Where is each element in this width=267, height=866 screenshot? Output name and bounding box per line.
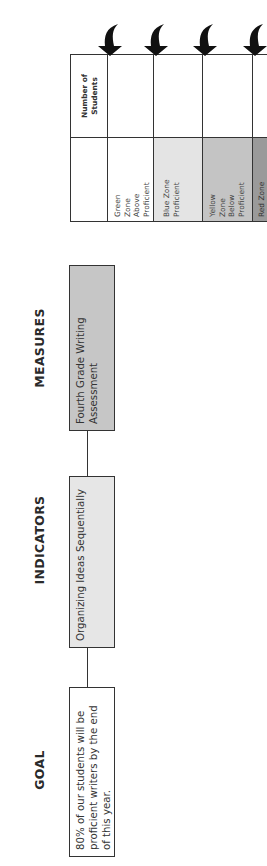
count-cell-yellow[interactable] — [202, 54, 253, 138]
measure-box: Fourth Grade Writing Assessment — [69, 265, 115, 431]
goal-header: GOAL — [33, 740, 47, 800]
count-cell-red[interactable] — [252, 54, 267, 138]
curved-arrow-icon — [142, 20, 172, 60]
goal-diagram: GOAL INDICATORS MEASURES 80% of our stud… — [0, 0, 267, 866]
count-cell-blue[interactable] — [153, 54, 203, 138]
curved-arrow-icon — [191, 20, 221, 60]
zone-label-yellow: Yellow Zone Below Proficient — [202, 137, 253, 222]
zone-label-blue: Blue Zone Proficient — [153, 137, 203, 222]
zone-label-green: Green Zone Above Proficient — [107, 137, 154, 222]
connector-goal-indicator — [87, 648, 88, 687]
curved-arrow-icon — [96, 20, 126, 60]
indicators-header: INDICATORS — [33, 484, 47, 596]
measures-header: MEASURES — [33, 300, 47, 396]
zone-table: Number of Students Green Zone Above Prof… — [70, 55, 267, 222]
zone-label-red: Red Zone — [252, 137, 267, 222]
count-cell-green[interactable] — [107, 54, 154, 138]
connector-indicator-measure — [87, 431, 88, 476]
goal-box: 80% of our students will be proficient w… — [69, 687, 115, 857]
curved-arrow-icon — [241, 20, 267, 60]
count-header-cell: Number of Students — [70, 54, 108, 138]
table-corner-cell — [70, 137, 108, 222]
indicator-box: Organizing Ideas Sequentially — [69, 476, 115, 648]
